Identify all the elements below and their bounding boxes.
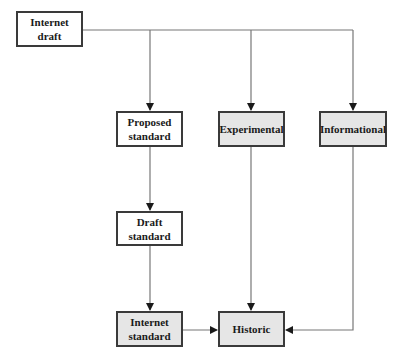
node-proposed-standard: Proposed standard (116, 111, 183, 147)
node-label-line1: Internet (128, 315, 170, 329)
node-label-line2: standard (128, 129, 172, 143)
rfc-standards-track-diagram: Internet draft Proposed standard Experim… (0, 0, 406, 355)
node-draft-standard: Draft standard (116, 211, 183, 246)
connector-lines (0, 0, 406, 355)
node-label-line2: standard (128, 329, 170, 343)
edge-informational-to-historic (286, 147, 353, 330)
node-label-line1: Draft (128, 215, 170, 229)
node-historic: Historic (218, 311, 285, 347)
node-label-line1: Informational (320, 122, 386, 136)
node-internet-draft: Internet draft (16, 11, 83, 47)
node-internet-standard: Internet standard (116, 311, 183, 347)
node-informational: Informational (319, 111, 387, 147)
node-experimental: Experimental (218, 111, 285, 147)
node-label-line2: standard (128, 229, 170, 243)
node-label-line2: draft (30, 29, 69, 43)
node-label-line1: Historic (233, 322, 271, 336)
node-label-line1: Experimental (219, 122, 283, 136)
node-label-line1: Internet (30, 15, 69, 29)
node-label-line1: Proposed (128, 115, 172, 129)
